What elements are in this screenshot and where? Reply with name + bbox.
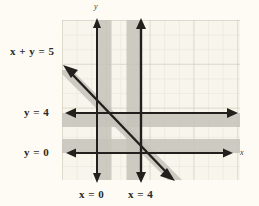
label-y-equals-4: y = 4 xyxy=(24,106,49,118)
label-x-equals-0: x = 0 xyxy=(79,188,104,200)
x-axis-label: x xyxy=(240,148,244,157)
coordinate-plane xyxy=(0,0,259,206)
y-axis-label: y xyxy=(94,2,98,11)
shade-band-x4 xyxy=(127,20,142,180)
shade-band-y4 xyxy=(62,113,240,127)
label-y-equals-0: y = 0 xyxy=(24,146,49,158)
graph-figure: y x x + y = 5 y = 4 y = 0 x = 0 x = 4 xyxy=(0,0,259,206)
label-x-plus-y-equals-5: x + y = 5 xyxy=(10,45,55,57)
label-x-equals-4: x = 4 xyxy=(128,188,153,200)
